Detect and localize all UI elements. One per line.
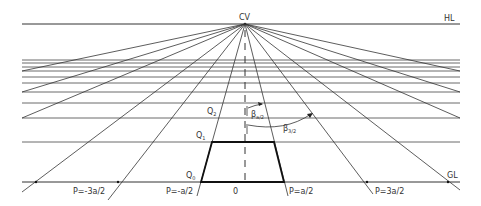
beta-large-arrowhead: [307, 113, 313, 118]
p-neg-a2-label: P=-a/2: [166, 187, 193, 196]
beta-small-label: βa/2: [251, 110, 264, 120]
beta-large-label: β3/2: [283, 124, 296, 134]
gl-label: GL: [447, 171, 458, 180]
hl-label: HL: [444, 14, 455, 23]
origin-label: 0: [233, 187, 238, 196]
q2-label: Q2: [207, 107, 216, 117]
trapezoid: [201, 142, 284, 182]
perspective-diagram: CV HL GL: [0, 0, 481, 206]
p-a2-label: P=a/2: [289, 187, 313, 196]
q1-label: Q1: [196, 131, 205, 141]
p-neg-3a2-label: P=-3a/2: [73, 187, 105, 196]
cv-label: CV: [239, 13, 251, 22]
perspective-rays: [22, 24, 460, 200]
q0-label: Q0: [186, 171, 195, 181]
p-3a2-label: P=3a/2: [375, 187, 404, 196]
